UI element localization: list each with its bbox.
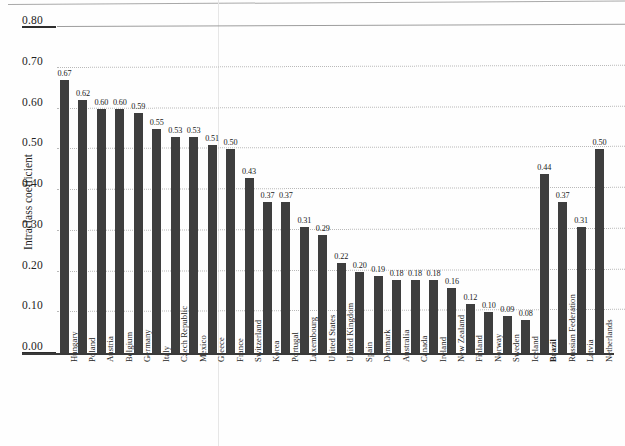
bar — [392, 280, 401, 353]
bar-value-label: 0.50 — [589, 138, 611, 147]
gridline-0.70 — [57, 65, 625, 68]
x-axis-line — [22, 353, 614, 355]
x-axis-category-label: Poland — [87, 338, 97, 362]
x-axis-category-label: Netherlands — [604, 319, 614, 362]
bar — [60, 80, 69, 353]
bar — [97, 109, 106, 354]
x-axis-category-label: Iceland — [530, 336, 540, 362]
y-axis-title: Intraclass coefficient — [22, 122, 34, 282]
bar — [281, 202, 290, 353]
x-axis-category-label: Finland — [474, 335, 484, 362]
x-axis-category-label: Brazil — [548, 339, 558, 362]
bar — [263, 202, 272, 353]
bar-chart-figure: 0.000.100.200.300.400.500.600.700.800.67… — [0, 0, 625, 446]
bar-value-label: 0.16 — [441, 277, 463, 286]
bar — [208, 145, 217, 353]
x-axis-category-label: Portugal — [290, 332, 300, 362]
bar-value-label: 0.67 — [54, 69, 76, 78]
bar-value-label: 0.08 — [515, 309, 537, 318]
x-axis-category-label: Canada — [419, 336, 429, 362]
x-axis-category-label: Australia — [401, 330, 411, 362]
gridline-0.80 — [57, 24, 625, 27]
x-axis-category-label: Greece — [216, 337, 226, 362]
x-axis-category-label: Korea — [271, 341, 281, 363]
bar-value-label: 0.37 — [275, 191, 297, 200]
bar-value-label: 0.43 — [238, 167, 260, 176]
bar — [134, 113, 143, 353]
x-axis-category-label: Austria — [105, 336, 115, 362]
bar — [521, 320, 530, 353]
bar-value-label: 0.44 — [533, 163, 555, 172]
x-axis-category-label: Denmark — [382, 329, 392, 362]
y-axis-tick-0.80: 0.80 — [22, 14, 56, 26]
bar — [484, 312, 493, 353]
x-axis-category-label: Switzerland — [253, 320, 263, 362]
plot-area: 0.000.100.200.300.400.500.600.700.800.67… — [0, 0, 625, 446]
bar — [226, 149, 235, 353]
tick-underline-0.80 — [22, 26, 56, 28]
bar — [558, 202, 567, 353]
x-axis-category-label: France — [235, 338, 245, 362]
x-axis-category-label: Ireland — [438, 337, 448, 362]
x-axis-category-label: Mexico — [198, 335, 208, 362]
x-axis-category-label: Belgium — [124, 332, 134, 362]
bar — [78, 100, 87, 353]
bar — [577, 227, 586, 353]
y-axis-tick-0.10: 0.10 — [22, 299, 56, 311]
x-axis-category-label: Russian Federation — [567, 294, 577, 362]
x-axis-category-label: Hungary — [69, 331, 79, 362]
x-axis-category-label: Luxembourg — [308, 317, 318, 362]
bar — [355, 272, 364, 354]
bar — [152, 129, 161, 353]
y-axis-tick-0.00: 0.00 — [22, 340, 56, 352]
bar-value-label: 0.31 — [570, 216, 592, 225]
bar — [115, 109, 124, 354]
x-axis-category-label: Sweden — [511, 334, 521, 362]
bar — [318, 235, 327, 353]
y-axis-tick-0.70: 0.70 — [22, 55, 56, 67]
bar — [189, 137, 198, 353]
x-axis-category-label: Spain — [364, 342, 374, 362]
bar — [595, 149, 604, 353]
bar-value-label: 0.50 — [220, 138, 242, 147]
bar — [540, 174, 549, 353]
bar-value-label: 0.59 — [127, 102, 149, 111]
x-axis-category-label: Latvia — [585, 339, 595, 362]
x-axis-category-label: Germany — [142, 329, 152, 362]
bar-value-label: 0.29 — [312, 224, 334, 233]
bar — [429, 280, 438, 353]
x-axis-category-label: Norway — [493, 334, 503, 362]
bar-value-label: 0.37 — [552, 191, 574, 200]
y-axis-tick-0.60: 0.60 — [22, 96, 56, 108]
